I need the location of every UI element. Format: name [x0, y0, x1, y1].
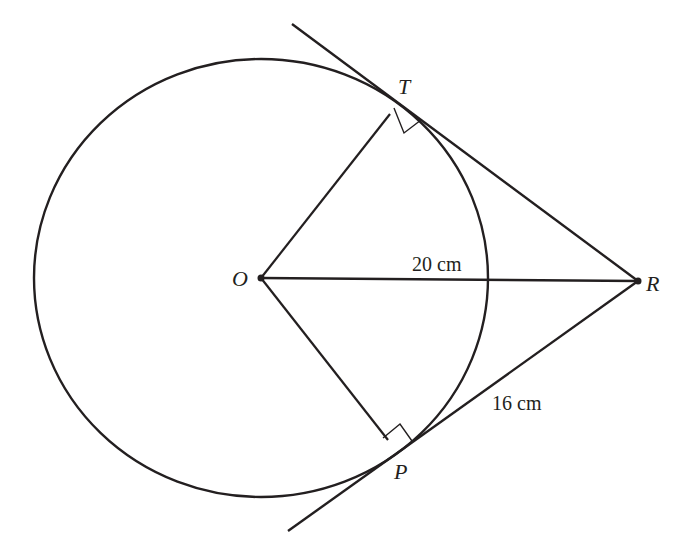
measure-or: 20 cm	[412, 253, 462, 275]
label-p: P	[393, 459, 407, 484]
line-or	[261, 278, 638, 281]
label-r: R	[645, 271, 660, 296]
label-t: T	[398, 74, 412, 99]
radius-op	[261, 278, 388, 440]
point-r	[635, 278, 642, 285]
tangent-line-pr	[288, 281, 638, 531]
point-o	[258, 275, 265, 282]
label-o: O	[232, 266, 248, 291]
radius-ot	[261, 114, 390, 278]
tangent-line-tr	[292, 24, 638, 281]
measure-pr: 16 cm	[492, 392, 542, 414]
geometry-diagram: T O R P 20 cm 16 cm	[0, 0, 684, 553]
